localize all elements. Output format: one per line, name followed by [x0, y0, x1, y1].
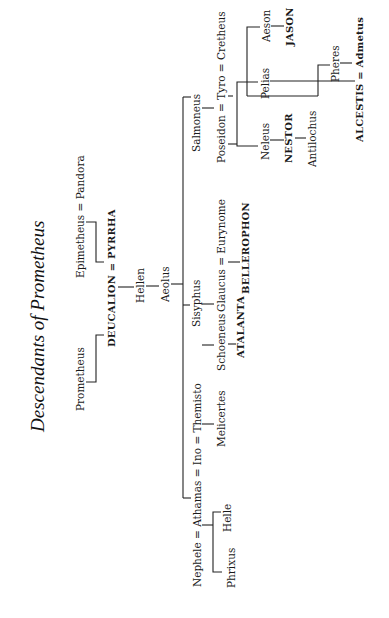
node-neleus: Neleus	[259, 123, 271, 160]
node-hellen: Hellen	[134, 268, 146, 303]
node-bellerophon: BELLEROPHON	[240, 202, 252, 294]
node-helle: Helle	[221, 504, 233, 532]
node-sisyphus: Sisyphus	[190, 279, 202, 327]
node-poseidon-tyro-cretheus: Poseidon = Tyro = Cretheus	[215, 11, 227, 163]
node-epimetheus-pandora: Epimetheus = Pandora	[74, 155, 86, 278]
node-aeolus: Aeolus	[159, 266, 171, 302]
node-pelias: Pelias	[259, 68, 271, 99]
node-alcestis-admetus: ALCESTIS = Admetus	[354, 17, 366, 142]
node-prometheus: Prometheus	[74, 347, 86, 411]
line-prometheus-deucalion	[86, 335, 104, 382]
family-tree-diagram: Descendants of Prometheus Prometheus Epi…	[0, 0, 389, 618]
node-atalanta: ATALANTA	[235, 296, 247, 358]
line-epimetheus-pyrrha	[86, 222, 104, 262]
node-nestor: NESTOR	[283, 113, 295, 163]
node-jason: JASON	[284, 7, 296, 46]
node-schoeneus: Schoeneus	[215, 314, 227, 372]
node-melicertes: Melicertes	[215, 390, 227, 447]
node-salmoneus: Salmoneus	[190, 94, 202, 152]
node-aeson: Aeson	[260, 10, 272, 42]
node-deucalion-pyrrha: DEUCALION = PYRRHA	[106, 209, 118, 347]
node-antilochus: Antilochus	[306, 111, 318, 167]
node-pheres: Pheres	[329, 45, 341, 82]
diagram-title: Descendants of Prometheus	[27, 221, 49, 432]
node-phrixus: Phrixus	[225, 548, 237, 588]
node-nephele-athamas-ino-themisto: Nephele = Athamas = Ino = Themisto	[191, 383, 203, 587]
node-glaucus-eurynome: Glaucus = Eurynome	[215, 199, 227, 312]
